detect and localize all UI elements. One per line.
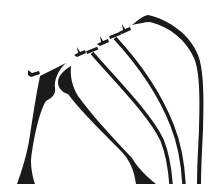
hook-icon [97, 36, 109, 46]
hook-icon [74, 47, 86, 57]
strand-diagram [0, 0, 217, 194]
wedge-strand-2 [58, 66, 156, 184]
hook-icon [119, 24, 131, 34]
hook-marks [28, 24, 131, 77]
hook-icon [28, 70, 40, 77]
curve-strand-4 [115, 38, 184, 184]
